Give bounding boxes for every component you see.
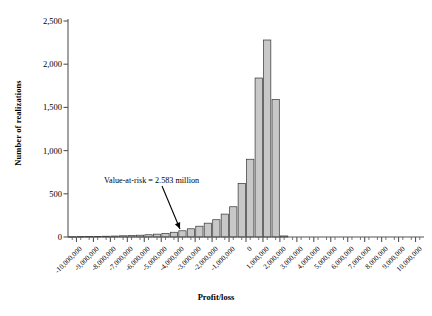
bar [179,231,186,237]
annotation-arrow [162,186,180,229]
bar [238,183,245,237]
y-tick-label: 0 [18,232,62,242]
bar [247,159,254,237]
bar [255,78,262,237]
bar [204,223,211,237]
bar [170,232,177,237]
axes [68,19,424,237]
y-tick-label: 2,000 [18,59,62,69]
y-tick-label: 1,000 [18,146,62,156]
histogram-figure: Number of realizations Profit/loss 05001… [0,0,432,316]
bar [213,220,220,237]
annotation-arrow-line [162,186,180,229]
bar-series [69,40,288,237]
y-tick-label: 2,500 [18,16,62,26]
x-axis-title: Profit/loss [0,292,432,302]
bar [264,40,271,237]
y-tick-label: 500 [18,189,62,199]
x-axis-ticks [72,237,420,242]
bar [187,229,194,237]
bar [272,100,279,237]
y-tick-label: 1,500 [18,102,62,112]
value-at-risk-annotation: Value-at-risk = 2.583 million [104,176,199,185]
bar [230,207,237,237]
y-axis-ticks [64,21,69,237]
bar [196,226,203,237]
bar [221,214,228,237]
